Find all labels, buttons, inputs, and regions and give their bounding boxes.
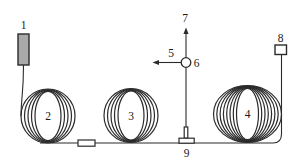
arrow5-head-icon [153, 60, 160, 65]
fiber-coil-3: 3 [104, 89, 158, 143]
arrow7-head-icon [183, 28, 188, 35]
schematic-diagram: 1 2 3 4 [0, 0, 299, 163]
fiber-coil-4: 4 [214, 86, 282, 143]
label-6: 6 [194, 57, 200, 69]
label-5: 5 [168, 47, 174, 59]
diagram-svg: 1 2 3 4 [0, 0, 299, 163]
tap-stem [184, 127, 188, 138]
label-2: 2 [45, 110, 51, 122]
coupler-6: 6 [181, 57, 199, 69]
fiber-bottom-rail [40, 55, 282, 144]
label-7: 7 [182, 12, 188, 24]
tap-9: 9 [179, 127, 194, 159]
fiber-coil-2: 2 [21, 89, 75, 143]
arrow-7: 7 [182, 12, 188, 58]
detector-8: 8 [275, 32, 287, 55]
source-block-1: 1 [18, 19, 29, 116]
label-4: 4 [245, 108, 251, 120]
inline-connector [78, 140, 95, 146]
source-block-rect [18, 34, 29, 65]
label-9: 9 [184, 147, 190, 159]
label-3: 3 [128, 110, 134, 122]
label-8: 8 [278, 32, 284, 44]
detector-rect [275, 45, 287, 55]
arrow-5: 5 [153, 47, 182, 65]
tap-base [179, 138, 194, 143]
label-1: 1 [21, 19, 27, 31]
coupler-circle [181, 58, 191, 68]
